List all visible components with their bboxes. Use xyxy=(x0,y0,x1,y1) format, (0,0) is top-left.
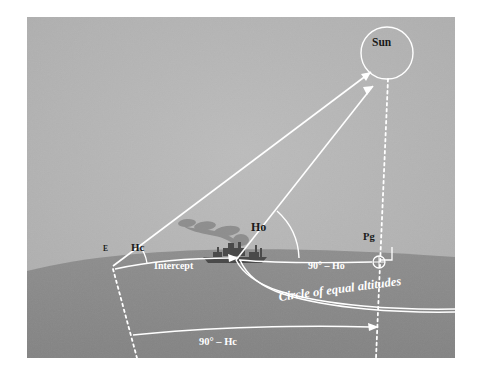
diagram-vector-layer xyxy=(27,17,455,358)
navigation-diagram: Sun E Hc Ho Pg Intercept 90° – Ho 90° – … xyxy=(27,17,455,358)
circled-cross-icon xyxy=(373,256,385,268)
figure-page: Sun E Hc Ho Pg Intercept 90° – Ho 90° – … xyxy=(0,0,479,377)
